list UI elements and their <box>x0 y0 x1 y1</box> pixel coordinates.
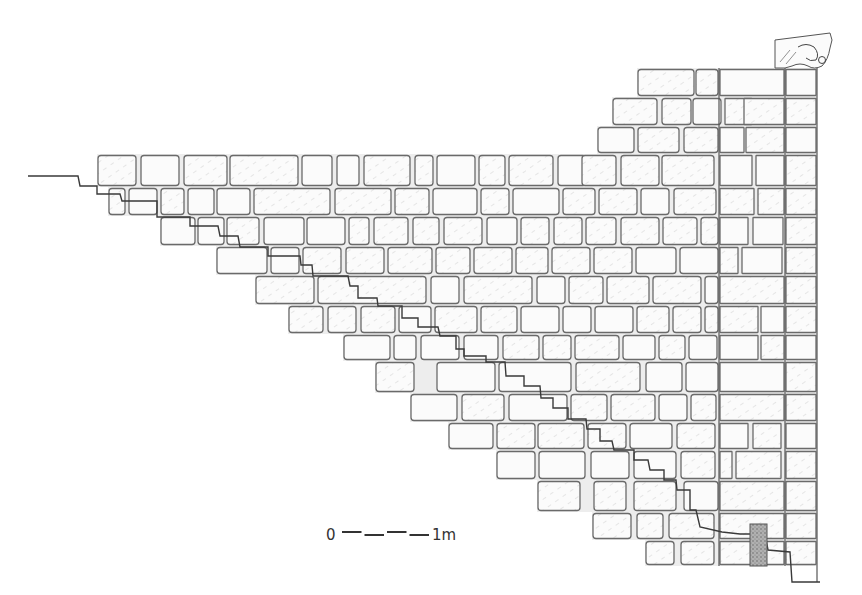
stone-courses <box>98 70 816 565</box>
stone-block <box>720 70 784 96</box>
stone-block <box>217 248 267 274</box>
stone-block <box>786 336 816 360</box>
corbel-ornament-icon <box>775 33 832 68</box>
stone-block <box>677 424 715 449</box>
stone-block <box>481 307 517 333</box>
stone-block <box>641 189 669 215</box>
stone-block <box>595 307 633 333</box>
stone-block <box>344 336 390 360</box>
stone-block <box>497 424 535 449</box>
stone-block <box>607 277 649 304</box>
stone-block <box>696 70 718 96</box>
stone-block <box>479 156 505 186</box>
stone-block <box>98 156 136 186</box>
stone-block <box>720 452 732 479</box>
stone-block <box>521 218 549 245</box>
stone-block <box>720 277 784 304</box>
stone-block <box>720 156 752 186</box>
stone-block <box>337 156 359 186</box>
stone-block <box>786 514 816 539</box>
stone-block <box>786 363 816 392</box>
stone-block <box>720 128 744 153</box>
stone-block <box>513 189 559 215</box>
stone-block <box>681 542 714 565</box>
stone-block <box>346 248 384 274</box>
stone-block <box>462 395 504 421</box>
stone-block <box>720 482 784 511</box>
stone-block <box>487 218 517 245</box>
stone-block <box>552 248 590 274</box>
stone-block <box>554 218 582 245</box>
stone-block <box>691 395 716 421</box>
stone-block <box>634 452 676 479</box>
stone-block <box>328 307 356 333</box>
stone-block <box>474 248 512 274</box>
stone-block <box>786 482 816 511</box>
stone-block <box>256 277 314 304</box>
stone-block <box>588 424 626 449</box>
stone-block <box>436 248 470 274</box>
stone-block <box>646 363 682 392</box>
stone-block <box>684 128 718 153</box>
stone-block <box>227 218 259 245</box>
stone-block <box>659 336 685 360</box>
stone-block <box>161 189 184 215</box>
stone-block <box>720 248 738 274</box>
stone-block <box>720 395 784 421</box>
stone-block <box>761 307 784 333</box>
stippled-patch <box>750 524 767 566</box>
stone-block <box>621 218 659 245</box>
stone-block <box>736 452 781 479</box>
stone-block <box>720 363 784 392</box>
stone-block <box>761 336 784 360</box>
stone-block <box>444 218 482 245</box>
stone-block <box>673 307 701 333</box>
stone-block <box>786 424 816 449</box>
stone-block <box>646 542 674 565</box>
stone-block <box>594 248 632 274</box>
stone-block <box>753 218 783 245</box>
stone-block <box>543 336 571 360</box>
stone-block <box>563 307 591 333</box>
stone-block <box>230 156 298 186</box>
stone-block <box>720 189 754 215</box>
stone-block <box>786 70 816 96</box>
stone-block <box>481 189 509 215</box>
stone-block <box>499 363 571 392</box>
stone-block <box>289 307 323 333</box>
stone-block <box>411 395 457 421</box>
stone-block <box>693 99 721 125</box>
stone-block <box>571 395 607 421</box>
stone-block <box>637 307 669 333</box>
stone-block <box>599 189 637 215</box>
stone-block <box>593 514 631 539</box>
scale-bar: 0 1m <box>326 526 456 544</box>
stone-block <box>686 363 718 392</box>
stone-block <box>271 248 299 274</box>
stone-block <box>611 395 655 421</box>
stone-block <box>680 248 718 274</box>
stone-block <box>758 189 784 215</box>
stone-block <box>786 248 816 274</box>
stone-block <box>437 363 495 392</box>
stone-block <box>521 307 559 333</box>
stone-block <box>674 189 716 215</box>
stone-block <box>638 70 694 96</box>
stone-block <box>689 336 717 360</box>
stone-block <box>516 248 548 274</box>
stone-block <box>188 189 214 215</box>
stone-block <box>413 218 439 245</box>
stone-block <box>653 277 701 304</box>
stone-block <box>621 156 659 186</box>
stone-block <box>591 452 629 479</box>
stone-block <box>720 307 758 333</box>
stone-block <box>663 218 697 245</box>
stone-block <box>497 452 535 479</box>
stone-block <box>742 248 782 274</box>
stone-block <box>744 99 784 125</box>
stone-block <box>303 248 341 274</box>
stone-block <box>399 307 431 333</box>
stone-block <box>637 514 663 539</box>
stone-block <box>753 424 781 449</box>
stone-block <box>563 189 595 215</box>
